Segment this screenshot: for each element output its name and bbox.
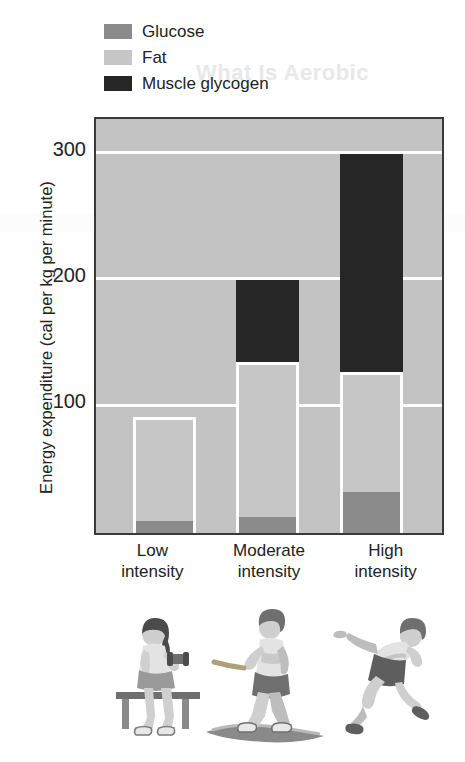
exercise-illustrations	[94, 602, 444, 752]
x-axis-labels: Low intensity Moderate intensity High in…	[94, 540, 444, 582]
legend-swatch-glucose	[104, 24, 132, 39]
x-axis-label-moderate: Moderate intensity	[211, 540, 328, 582]
legend-item-fat: Fat	[104, 44, 269, 70]
legend-item-glucose: Glucose	[104, 18, 269, 44]
bar-segment-fat-low	[133, 417, 196, 533]
seated-dumbbell-curl-figure	[108, 614, 218, 742]
bar-low-intensity	[133, 417, 196, 533]
legend-swatch-fat	[104, 50, 132, 65]
x-axis-label-high-line2: intensity	[327, 561, 444, 582]
legend-label-fat: Fat	[142, 49, 167, 66]
legend-item-muscle-glycogen: Muscle glycogen	[104, 70, 269, 96]
x-axis-label-low-line1: Low	[94, 540, 211, 561]
sprinting-runner-figure	[318, 610, 444, 746]
bar-segment-glucose-moderate	[236, 517, 299, 533]
bar-segment-muscle-glycogen-high	[340, 154, 403, 372]
x-axis-label-moderate-line1: Moderate	[211, 540, 328, 561]
bar-segment-glucose-low	[133, 521, 196, 533]
x-axis-label-low: Low intensity	[94, 540, 211, 582]
bar-high-intensity	[340, 154, 403, 533]
legend-label-glucose: Glucose	[142, 23, 204, 40]
y-tick-label-200: 200	[30, 264, 86, 287]
legend-swatch-muscle-glycogen	[104, 76, 132, 91]
x-axis-label-high: High intensity	[327, 540, 444, 582]
bar-moderate-intensity	[236, 280, 299, 533]
y-axis-title: Energy expenditure (cal per kg per minut…	[37, 128, 56, 548]
y-tick-label-100: 100	[30, 390, 86, 413]
x-axis-label-low-line2: intensity	[94, 561, 211, 582]
x-axis-label-moderate-line2: intensity	[211, 561, 328, 582]
bar-segment-fat-moderate	[236, 362, 299, 533]
chart-plot-area	[94, 117, 444, 535]
walking-hiking-figure	[204, 606, 329, 748]
legend-label-muscle-glycogen: Muscle glycogen	[142, 75, 269, 92]
y-tick-label-300: 300	[30, 138, 86, 161]
bar-segment-glucose-high	[340, 492, 403, 533]
x-axis-label-high-line1: High	[327, 540, 444, 561]
chart-legend: Glucose Fat Muscle glycogen	[104, 18, 269, 96]
bar-segment-muscle-glycogen-moderate	[236, 280, 299, 362]
